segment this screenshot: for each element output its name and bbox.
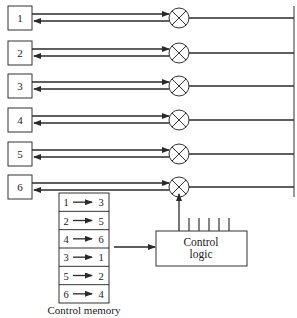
control-memory-entry: 46 <box>59 230 109 245</box>
port-row-1: 1 <box>8 6 294 30</box>
control-memory-entry: 31 <box>59 248 109 263</box>
port-label: 2 <box>17 47 23 59</box>
port-label: 4 <box>17 114 23 126</box>
control-memory-entry: 52 <box>59 266 109 281</box>
control-logic-label-line1: Control <box>183 236 218 248</box>
entry-from: 5 <box>63 271 68 282</box>
control-logic-block: Control logic <box>156 194 247 266</box>
control-memory-caption: Control memory <box>47 304 121 316</box>
time-slot-interchange-diagram: 123456 132546315264 Control memory Contr… <box>0 0 297 318</box>
entry-to: 2 <box>98 271 103 282</box>
entry-to: 1 <box>98 252 103 263</box>
port-row-3: 3 <box>8 74 294 98</box>
control-memory: 132546315264 Control memory <box>47 193 121 316</box>
entry-to: 3 <box>98 197 103 208</box>
control-memory-entry: 64 <box>59 285 109 300</box>
port-row-4: 4 <box>8 108 294 132</box>
entry-to: 4 <box>98 289 104 300</box>
port-row-5: 5 <box>8 142 294 166</box>
port-row-2: 2 <box>8 41 294 65</box>
control-memory-entry: 25 <box>59 211 109 226</box>
entry-from: 1 <box>63 197 68 208</box>
port-label: 6 <box>17 181 23 193</box>
entry-from: 6 <box>63 289 68 300</box>
port-label: 5 <box>17 148 23 160</box>
port-label: 1 <box>17 12 23 24</box>
entry-from: 3 <box>63 252 68 263</box>
port-row-6: 6 <box>8 175 294 199</box>
control-logic-label-line2: logic <box>190 248 213 261</box>
entry-to: 6 <box>98 234 103 245</box>
control-memory-entry: 13 <box>63 197 103 208</box>
entry-from: 2 <box>63 216 68 227</box>
entry-to: 5 <box>98 216 103 227</box>
entry-from: 4 <box>63 234 69 245</box>
port-label: 3 <box>17 80 23 92</box>
